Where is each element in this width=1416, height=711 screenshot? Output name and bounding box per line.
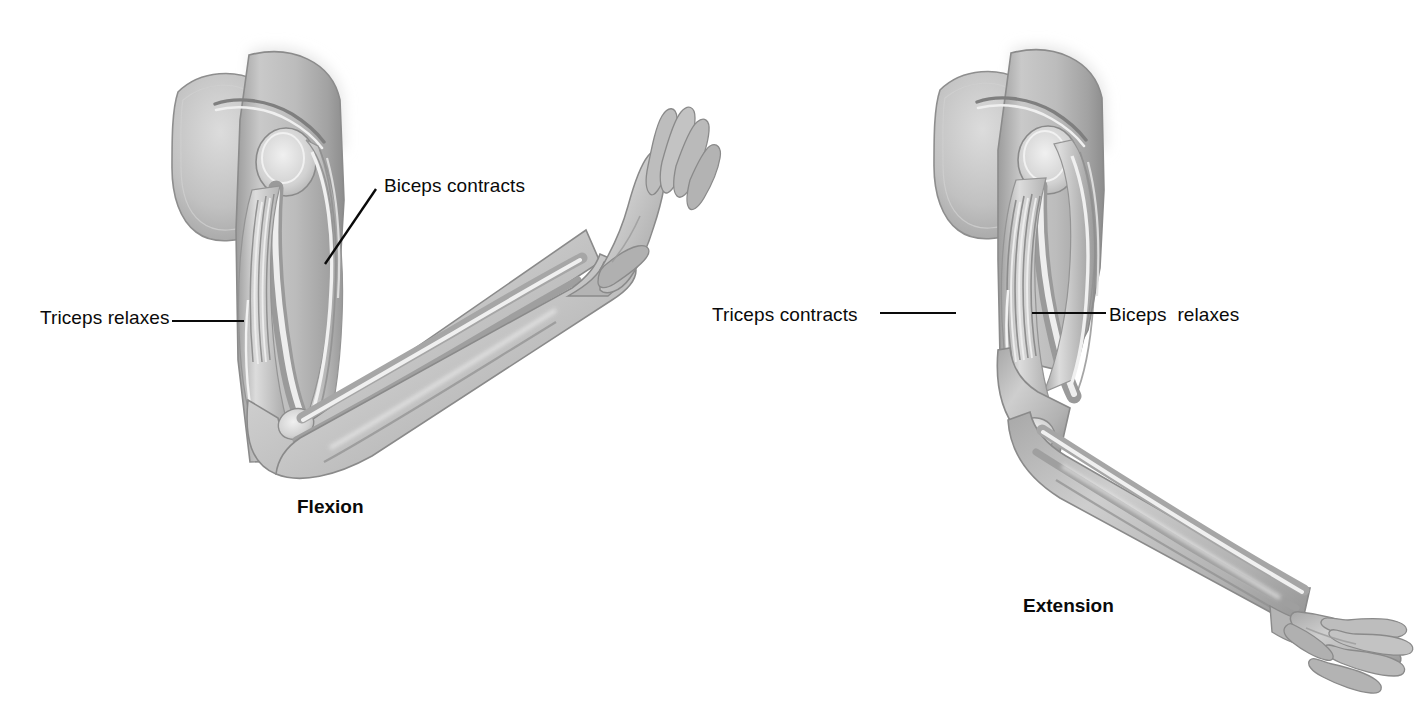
flexion-arm-illustration <box>172 48 720 478</box>
caption-extension: Extension <box>1023 596 1114 615</box>
leader-line-triceps-relaxes <box>172 320 244 322</box>
figure-canvas: Biceps contracts Triceps relaxes Flexion… <box>0 0 1416 711</box>
anatomy-illustration <box>0 0 1416 711</box>
label-triceps-contracts: Triceps contracts <box>712 305 858 324</box>
label-biceps-relaxes: Biceps relaxes <box>1109 305 1239 324</box>
leader-line-biceps-relaxes <box>1032 312 1106 314</box>
label-triceps-relaxes: Triceps relaxes <box>40 308 170 327</box>
leader-line-triceps-contracts <box>880 312 956 314</box>
label-biceps-contracts: Biceps contracts <box>384 176 525 195</box>
caption-flexion: Flexion <box>297 497 364 516</box>
extension-arm-illustration <box>934 46 1413 693</box>
